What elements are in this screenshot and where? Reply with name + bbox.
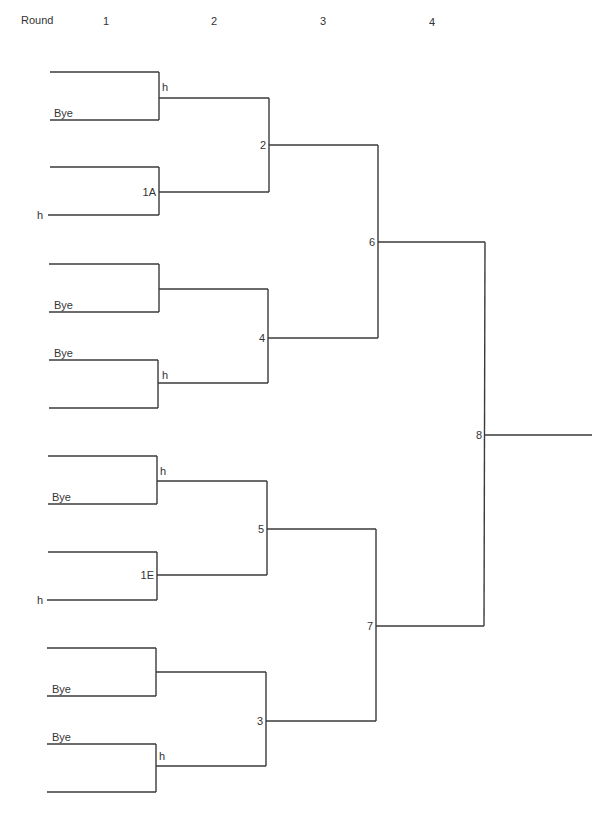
bracket-lines (0, 0, 613, 824)
match-number-2: 2 (252, 139, 266, 151)
match-number-7: 7 (359, 620, 373, 632)
tournament-bracket: Round 1 2 3 4 Bye h Bye Bye Bye h Bye By… (0, 0, 613, 824)
entry-bye: Bye (54, 299, 73, 311)
match-number-5: 5 (250, 523, 264, 535)
entry-bye: Bye (52, 683, 71, 695)
match-label-h: h (159, 750, 165, 762)
entry-bye: Bye (54, 107, 73, 119)
match-label-h: h (160, 465, 166, 477)
match-label-1e: 1E (136, 569, 154, 581)
match-number-8: 8 (468, 429, 482, 441)
match-label-1a: 1A (138, 186, 156, 198)
match-label-h: h (162, 81, 168, 93)
entry-h: h (37, 209, 43, 221)
match-number-3: 3 (249, 715, 263, 727)
entry-bye: Bye (52, 731, 71, 743)
match-label-h: h (162, 369, 168, 381)
entry-bye: Bye (54, 347, 73, 359)
match-number-4: 4 (251, 332, 265, 344)
entry-h: h (37, 594, 43, 606)
match-number-6: 6 (361, 236, 375, 248)
entry-bye: Bye (52, 491, 71, 503)
